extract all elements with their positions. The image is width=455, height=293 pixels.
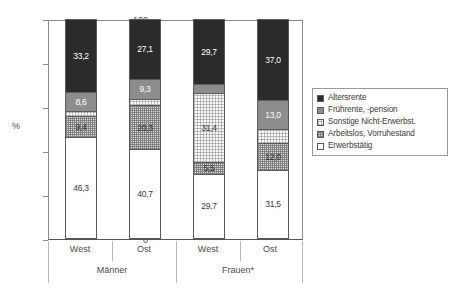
legend-item-erwerbstaetig[interactable]: Erwerbstätig — [317, 141, 444, 151]
bar-segment-erwerbstaetig[interactable]: 40,7 — [129, 149, 161, 239]
bar-segment-value-label: 9,3 — [139, 84, 150, 94]
legend-item-fruehrente[interactable]: Frührente, -pension — [317, 105, 444, 115]
bar-segment-arbeitslos-vorruhestand[interactable]: 20,3 — [129, 105, 161, 150]
legend-swatch-icon — [317, 107, 324, 114]
bar-segment-value-label: 12,0 — [265, 152, 281, 162]
bar-segment-arbeitslos-vorruhestand[interactable]: 5,5 — [193, 162, 225, 174]
bar-segment-altersrente[interactable]: 29,7 — [193, 19, 225, 84]
bar-segment-value-label: 29,7 — [201, 47, 217, 57]
legend-swatch-icon — [317, 119, 324, 126]
bar-segment-value-label: 13,0 — [265, 110, 281, 120]
bar-segment-erwerbstaetig[interactable]: 31,5 — [257, 170, 289, 239]
bar-segment-sonstige-nicht-erwerbst[interactable]: 31,4 — [193, 93, 225, 162]
bar-segment-arbeitslos-vorruhestand[interactable]: 9,4 — [65, 116, 97, 137]
bar-segment-altersrente[interactable]: 27,1 — [129, 19, 161, 79]
legend-swatch-icon — [317, 131, 324, 138]
bar-frauen-west[interactable]: 29,731,45,529,7 — [193, 19, 225, 239]
legend-swatch-icon — [317, 95, 324, 102]
bar-segment-fruehrente[interactable]: 13,0 — [257, 100, 289, 129]
x-tick-label-maenner-west: West — [48, 244, 112, 254]
x-tick-label-frauen-ost: Ost — [238, 244, 302, 254]
x-group-label-frauen: Frauen* — [174, 265, 302, 275]
bar-segment-altersrente[interactable]: 33,2 — [65, 19, 97, 92]
bar-segment-value-label: 5,5 — [203, 163, 214, 173]
legend-item-label: Sonstige Nicht-Erwerbst. — [328, 117, 416, 127]
bar-segment-value-label: 8,6 — [75, 97, 86, 107]
bar-maenner-ost[interactable]: 27,19,320,340,7 — [129, 19, 161, 239]
legend-swatch-icon — [317, 143, 324, 150]
x-group-label-maenner: Männer — [48, 265, 176, 275]
x-tick-label-frauen-west: West — [176, 244, 240, 254]
bar-segment-erwerbstaetig[interactable]: 46,3 — [65, 137, 97, 239]
bar-segment-value-label: 27,1 — [137, 44, 153, 54]
plot-area: 33,28,69,446,3 27,19,320,340,7 29,731,45… — [48, 20, 303, 240]
bar-segment-value-label: 40,7 — [137, 189, 153, 199]
bar-segment-value-label: 31,4 — [201, 123, 217, 133]
bar-segment-altersrente[interactable]: 37,0 — [257, 19, 289, 100]
x-axis: West Ost West Ost Männer Frauen* — [48, 241, 303, 291]
bar-segment-fruehrente[interactable]: 8,6 — [65, 92, 97, 111]
bar-segment-value-label: 20,3 — [137, 123, 153, 133]
bar-segment-fruehrente[interactable]: 9,3 — [129, 79, 161, 99]
chart-legend: Altersrente Frührente, -pension Sonstige… — [312, 88, 448, 156]
legend-item-label: Frührente, -pension — [328, 105, 398, 115]
bar-segment-value-label: 33,2 — [73, 51, 89, 61]
bar-segment-value-label: 29,7 — [201, 201, 217, 211]
legend-item-altersrente[interactable]: Altersrente — [317, 93, 444, 103]
bar-frauen-ost[interactable]: 37,013,012,031,5 — [257, 19, 289, 239]
legend-item-sonstige-nicht-erwerbst[interactable]: Sonstige Nicht-Erwerbst. — [317, 117, 444, 127]
bar-segment-arbeitslos-vorruhestand[interactable]: 12,0 — [257, 143, 289, 169]
bar-segment-value-label: 46,3 — [73, 183, 89, 193]
x-tick-label-maenner-ost: Ost — [112, 244, 176, 254]
bar-segment-value-label: 37,0 — [265, 55, 281, 65]
bar-segment-value-label: 9,4 — [75, 122, 86, 132]
legend-item-label: Altersrente — [328, 93, 367, 103]
bar-segment-fruehrente[interactable] — [193, 84, 225, 92]
bar-maenner-west[interactable]: 33,28,69,446,3 — [65, 19, 97, 239]
legend-item-label: Erwerbstätig — [328, 141, 372, 151]
x-axis-separator — [302, 241, 303, 283]
y-axis-title: % — [12, 121, 20, 131]
legend-item-arbeitslos-vorruhestand[interactable]: Arbeitslos, Vorruhestand — [317, 129, 444, 139]
bar-segment-erwerbstaetig[interactable]: 29,7 — [193, 174, 225, 239]
bar-segment-value-label: 31,5 — [265, 199, 281, 209]
chart-container: % 100 80 60 40 20 0 33,28,69,446,3 27,19… — [0, 0, 455, 293]
legend-item-label: Arbeitslos, Vorruhestand — [328, 129, 415, 139]
bar-segment-sonstige-nicht-erwerbst[interactable] — [257, 129, 289, 143]
